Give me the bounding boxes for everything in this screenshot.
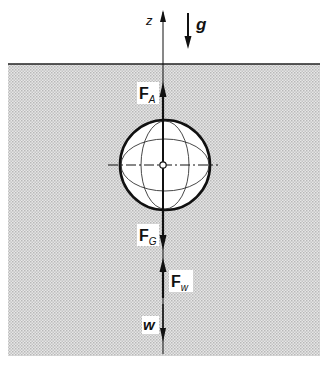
diagram-canvas: z g FA [0, 0, 330, 366]
z-axis-arrowhead [160, 10, 166, 22]
sphere-center-point [160, 162, 166, 168]
buoyancy-diagram: z g FA [0, 0, 330, 366]
gravity-arrowhead [185, 36, 192, 49]
gravity-label: g [195, 15, 207, 34]
velocity-label: w [143, 316, 156, 333]
z-axis-label: z [145, 13, 153, 28]
